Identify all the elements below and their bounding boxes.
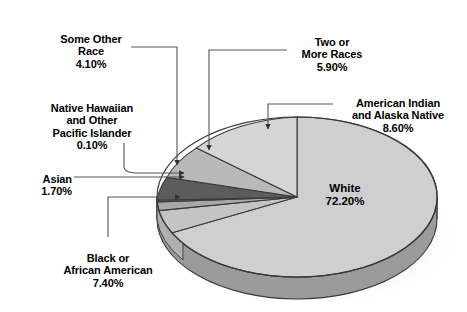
callout-label-native-hawaiian: Native Hawaiian and Other Pacific Island…	[51, 102, 133, 139]
callout-label-asian: Asian	[43, 173, 72, 185]
callout-value-asian: 1.70%	[10, 185, 72, 198]
callout-label-black-or-african-american: Black or African American	[63, 252, 152, 277]
callout-value-two-or-more-races: 5.90%	[289, 61, 375, 74]
callout-label-some-other-race: Some Other Race	[60, 33, 121, 58]
slice-label-value-white: 72.20%	[325, 195, 364, 207]
slice-label-text-white: White	[329, 182, 360, 194]
callout-label-two-or-more-races: Two or More Races	[302, 36, 363, 61]
callout-label-american-indian: American Indian and Alaska Native	[352, 97, 444, 122]
callout-value-some-other-race: 4.10%	[48, 58, 134, 71]
callout-american-indian: American Indian and Alaska Native 8.60%	[334, 84, 462, 147]
callout-asian: Asian 1.70%	[10, 160, 72, 210]
callout-value-american-indian: 8.60%	[334, 122, 462, 135]
callout-black-or-african-american: Black or African American 7.40%	[38, 239, 178, 302]
callout-value-black-or-african-american: 7.40%	[38, 277, 178, 290]
callout-value-native-hawaiian: 0.10%	[45, 139, 139, 152]
slice-label-white: White 72.20%	[300, 182, 390, 208]
callout-two-or-more-races: Two or More Races 5.90%	[289, 23, 375, 86]
callout-native-hawaiian: Native Hawaiian and Other Pacific Island…	[45, 89, 139, 164]
pie-chart-figure: Some Other Race 4.10% Native Hawaiian an…	[0, 0, 467, 312]
callout-some-other-race: Some Other Race 4.10%	[48, 20, 134, 83]
